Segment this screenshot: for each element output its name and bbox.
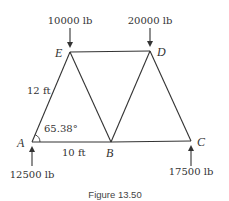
member-BC <box>111 141 191 142</box>
truss-diagram: 10000 lb 20000 lb 12500 lb 17500 lb E D … <box>0 0 229 201</box>
node-label-D: D <box>156 45 166 59</box>
node-label-A: A <box>16 136 25 150</box>
member-DC <box>150 51 191 141</box>
figure-caption: Figure 13.50 <box>88 189 141 200</box>
node-label-E: E <box>54 46 63 60</box>
load-label-D: 20000 lb <box>128 15 173 26</box>
reaction-label-A: 12500 lb <box>10 169 55 180</box>
dimension-AB: 10 ft <box>62 147 86 158</box>
node-label-B: B <box>106 146 114 160</box>
node-label-C: C <box>197 135 206 149</box>
reaction-label-C: 17500 lb <box>169 166 214 177</box>
member-BD <box>111 51 150 142</box>
member-ED <box>70 51 150 52</box>
angle-arc-A <box>35 135 40 142</box>
angle-label-A: 65.38° <box>44 123 78 134</box>
load-label-E: 10000 lb <box>48 15 93 26</box>
dimension-AE: 12 ft <box>27 85 51 96</box>
